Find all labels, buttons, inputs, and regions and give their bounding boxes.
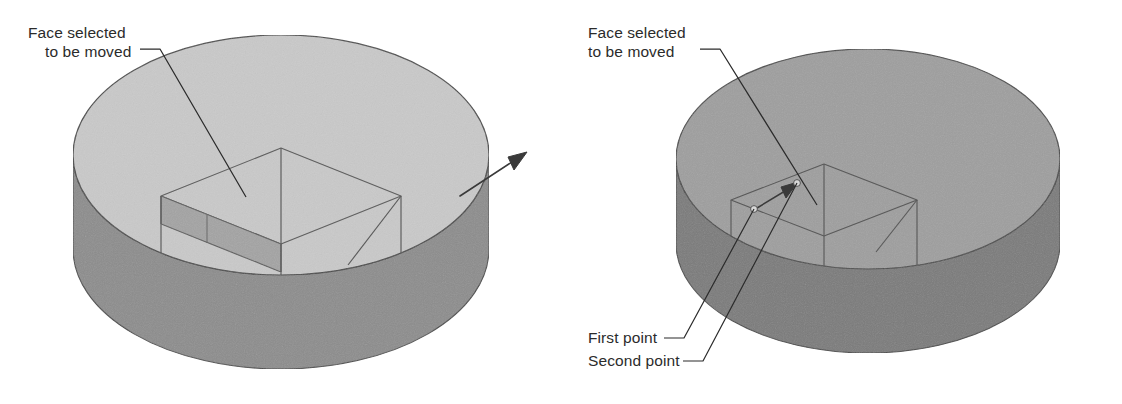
figure-canvas: Face selected to be moved	[0, 0, 1122, 404]
face-selected-label-line-1: Face selected	[588, 24, 686, 41]
right-cylinder-top-face	[676, 49, 1060, 269]
face-selected-label: Face selected to be moved	[588, 24, 686, 60]
left-panel: Face selected to be moved	[28, 24, 527, 369]
illustration-svg: Face selected to be moved	[0, 0, 1122, 404]
first-point-label-text: First point	[588, 329, 658, 346]
second-point-label-text: Second point	[588, 352, 680, 369]
first-point-label: First point	[588, 329, 658, 346]
right-panel: Face selected to be moved First point Se…	[588, 24, 1060, 369]
face-selected-label-line-1: Face selected	[28, 24, 126, 41]
second-point-label: Second point	[588, 352, 680, 369]
face-selected-label: Face selected to be moved	[28, 24, 131, 60]
face-selected-label-line-2: to be moved	[45, 43, 131, 60]
face-selected-label-line-2: to be moved	[588, 43, 674, 60]
